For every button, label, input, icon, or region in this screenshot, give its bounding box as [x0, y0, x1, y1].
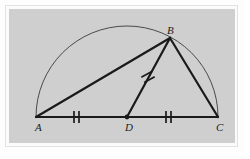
label-vertex-a: A: [35, 122, 42, 133]
label-vertex-d: D: [125, 122, 133, 133]
geometry-figure-screenshot: A B C D: [0, 0, 250, 159]
vertex-labels: A B C D: [9, 9, 235, 143]
label-vertex-c: C: [216, 122, 223, 133]
figure-canvas: A B C D: [9, 9, 235, 143]
label-vertex-b: B: [167, 25, 174, 36]
